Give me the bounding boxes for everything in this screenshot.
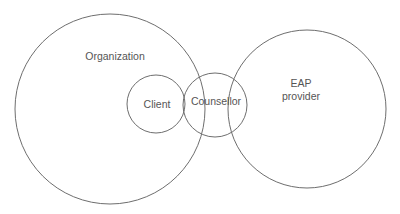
eap-provider-label: EAP provider (282, 77, 320, 103)
client-label: Client (144, 98, 171, 111)
eap-provider-label-line1: EAP (282, 77, 320, 90)
organization-circle (15, 14, 205, 204)
organization-label: Organization (85, 50, 145, 63)
counsellor-label: Counsellor (191, 95, 241, 108)
eap-relationship-diagram: Organization Client Counsellor EAP provi… (0, 0, 400, 214)
eap-provider-circle (228, 30, 386, 188)
eap-provider-label-line2: provider (282, 90, 320, 103)
